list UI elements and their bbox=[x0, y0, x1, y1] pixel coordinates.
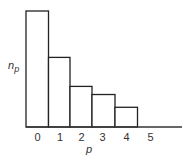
x-tick-labels: 012345 bbox=[34, 131, 153, 143]
x-tick-label: 5 bbox=[147, 131, 153, 143]
x-tick-label: 1 bbox=[57, 131, 63, 143]
histogram-chart: 012345 p np bbox=[0, 0, 189, 160]
histogram-bar-2 bbox=[70, 86, 92, 127]
x-tick-label: 3 bbox=[99, 131, 105, 143]
x-tick-label: 4 bbox=[123, 131, 129, 143]
x-tick-label: 0 bbox=[34, 131, 40, 143]
y-axis-label: np bbox=[8, 59, 19, 74]
x-axis-label: p bbox=[85, 143, 92, 155]
y-axis-label-subscript: p bbox=[13, 64, 19, 74]
histogram-bar-1 bbox=[49, 57, 71, 127]
x-tick-label: 2 bbox=[78, 131, 84, 143]
histogram-bar-0 bbox=[26, 11, 49, 127]
histogram-bar-4 bbox=[115, 107, 138, 127]
histogram-bar-3 bbox=[92, 95, 115, 127]
histogram-bars bbox=[26, 11, 138, 127]
